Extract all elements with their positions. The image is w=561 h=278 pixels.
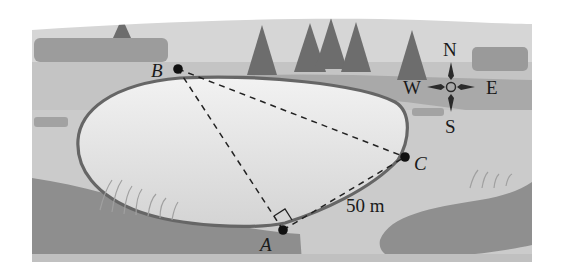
hedge-left [34, 38, 168, 62]
point-a [278, 225, 288, 235]
compass-west: W [403, 77, 421, 98]
compass-east: E [486, 77, 498, 98]
point-b [173, 64, 183, 74]
label-a: A [258, 234, 272, 255]
compass-south: S [445, 116, 456, 137]
compass-north: N [443, 39, 457, 60]
point-c [400, 152, 410, 162]
hedge-small-right [412, 108, 444, 116]
label-b: B [151, 60, 163, 81]
hedge-small-left [34, 117, 68, 127]
label-c: C [414, 153, 427, 174]
bottom-strip [32, 254, 532, 264]
pond-diagram: B C A 50 m N S W E [0, 0, 561, 278]
hedge-right [472, 47, 528, 71]
measurement-label: 50 m [346, 195, 385, 216]
